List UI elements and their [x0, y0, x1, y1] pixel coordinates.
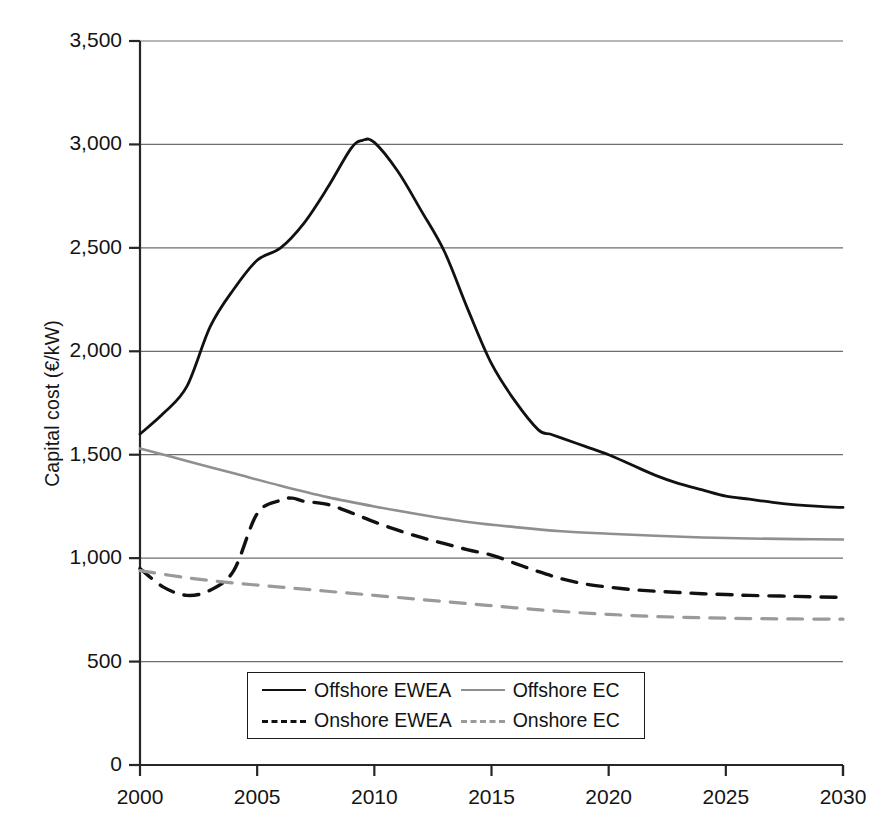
chart-legend: Offshore EWEAOffshore ECOnshore EWEAOnsh…: [247, 672, 645, 739]
legend-label: Offshore EC: [513, 679, 620, 702]
legend-label: Offshore EWEA: [314, 679, 451, 702]
series-line: [140, 571, 843, 620]
legend-label: Onshore EC: [513, 709, 620, 732]
capital-cost-line-chart: Capital cost (€/kW) 05001,0001,5002,0002…: [0, 0, 890, 825]
series-line: [140, 139, 843, 507]
legend-label: Onshore EWEA: [314, 709, 452, 732]
legend-item[interactable]: Onshore EWEA: [262, 709, 461, 732]
legend-item[interactable]: Onshore EC: [461, 709, 644, 732]
legend-item[interactable]: Offshore EWEA: [262, 679, 461, 702]
series-line: [140, 449, 843, 540]
legend-item[interactable]: Offshore EC: [461, 679, 644, 702]
